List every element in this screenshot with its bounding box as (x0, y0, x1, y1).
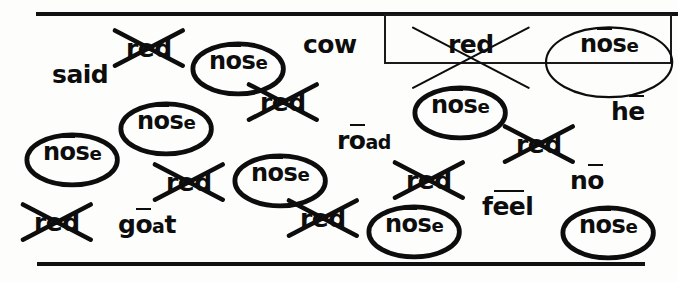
word-text: road (337, 126, 391, 155)
word-said-none[interactable]: said (52, 62, 108, 87)
worksheet-canvas: rednose rednosecowsaidrednosenosehenoser… (0, 0, 678, 282)
word-text: cow (303, 30, 357, 59)
word-no-none[interactable]: no (570, 168, 604, 193)
word-text: red (300, 204, 346, 233)
word-text: red (260, 88, 306, 117)
word-text: red (448, 30, 494, 59)
word-text: nose (209, 47, 267, 75)
word-red-crossed[interactable]: red (20, 200, 94, 245)
word-red-crossed[interactable]: red (392, 158, 466, 203)
word-text: red (126, 34, 172, 63)
word-red-crossed[interactable]: red (152, 160, 226, 205)
word-nose-circled[interactable]: nose (366, 203, 462, 245)
word-cow-none[interactable]: cow (303, 32, 357, 57)
word-feel-none[interactable]: feel (482, 194, 533, 219)
word-red-crossed[interactable]: red (112, 26, 186, 71)
word-text: nose (431, 91, 489, 119)
word-text: no (570, 166, 604, 195)
word-text: feel (482, 192, 533, 221)
word-text: red (166, 168, 212, 197)
word-nose-circled[interactable]: nose (560, 204, 656, 246)
word-nose-circled[interactable]: nose (232, 152, 328, 194)
word-he-none[interactable]: he (611, 99, 645, 124)
word-nose-circled[interactable]: nose (190, 40, 286, 82)
bottom-horizontal-rule (37, 262, 645, 266)
legend-circled-example[interactable]: nose (542, 22, 676, 66)
word-red-crossed[interactable]: red (246, 80, 320, 125)
legend-crossed-example[interactable]: red (408, 20, 534, 69)
answer-key-box: rednose (384, 14, 672, 64)
word-text: said (52, 60, 108, 89)
word-text: nose (43, 138, 101, 166)
word-text: red (34, 208, 80, 237)
word-text: nose (137, 107, 195, 135)
word-goat-none[interactable]: goat (118, 212, 176, 237)
word-red-crossed[interactable]: red (286, 196, 360, 241)
word-text: nose (580, 30, 638, 58)
word-road-none[interactable]: road (337, 128, 391, 153)
word-text: nose (251, 159, 309, 187)
word-nose-circled[interactable]: nose (412, 84, 508, 126)
word-text: red (406, 166, 452, 195)
word-text: red (516, 130, 562, 159)
word-text: he (611, 97, 645, 126)
word-text: nose (385, 210, 443, 238)
word-text: nose (579, 211, 637, 239)
word-nose-circled[interactable]: nose (118, 100, 214, 142)
word-nose-circled[interactable]: nose (24, 131, 120, 173)
word-red-crossed[interactable]: red (502, 122, 576, 167)
word-text: goat (118, 210, 176, 239)
